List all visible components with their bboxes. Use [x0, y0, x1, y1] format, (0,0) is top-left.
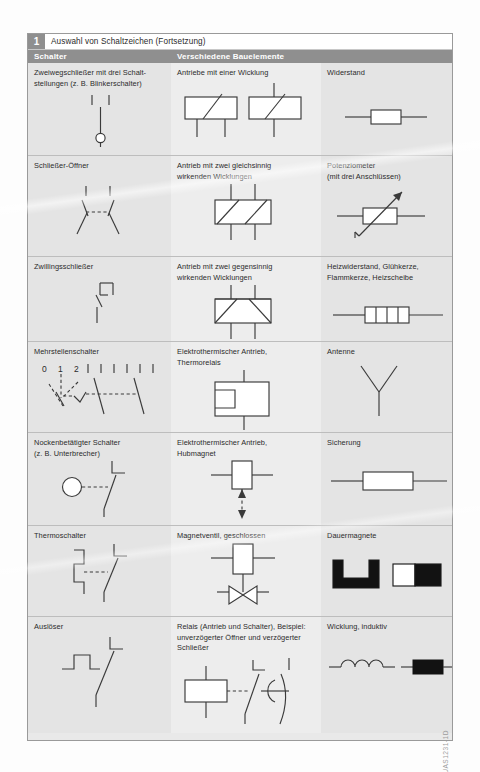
symbol-fuse: [327, 449, 446, 513]
symbol-antenna: [327, 358, 446, 422]
table-row: Auslöser Relais (Antrieb und Schalter), …: [28, 617, 452, 733]
cell-switch: Schließer-Öffner: [28, 156, 171, 256]
cell-label: Widerstand: [327, 68, 446, 79]
cell-component-alt: Wicklung, induktiv: [321, 617, 452, 733]
cell-label: Heizwiderstand, Glühkerze, Flammkerze, H…: [327, 262, 446, 283]
table-row: Mehrstellenschalter 0 1 2: [28, 342, 452, 433]
cell-label: Zwillingsschließer: [34, 262, 165, 273]
cell-label: Antrieb mit zwei gegensinnig wirkenden W…: [177, 262, 315, 283]
table-row: Zwillingsschließer Antrieb mit zwe: [28, 257, 452, 342]
symbol-heating-resistor: [327, 283, 446, 341]
document-page: 1 Auswahl von Schaltzeichen (Fortsetzung…: [0, 0, 480, 772]
cell-switch: Zweiwegschließer mit drei Schalt- stellu…: [28, 63, 171, 155]
column-header-schalter: Schalter: [28, 50, 171, 63]
cell-component: Elektrothermischer Antrieb, Hubmagnet: [171, 433, 321, 525]
column-header-bauelemente: Verschiedene Bauelemente: [171, 50, 321, 63]
position-label-1: 1: [58, 364, 63, 374]
cell-switch: Zwillingsschließer: [28, 257, 171, 341]
cell-switch: Auslöser: [28, 617, 171, 733]
symbol-inductive-winding: [327, 633, 446, 711]
cell-label: Zweiwegschließer mit drei Schalt- stellu…: [34, 68, 165, 89]
cell-label: Potenziometer (mit drei Anschlüssen): [327, 161, 446, 182]
figure-title-bar: 1 Auswahl von Schaltzeichen (Fortsetzung…: [28, 34, 452, 50]
cell-component: Antrieb mit zwei gleichsinnig wirkenden …: [171, 156, 321, 256]
table-body: Zweiwegschließer mit drei Schalt- stellu…: [28, 63, 452, 733]
cell-component: Antriebe mit einer Wicklung: [171, 63, 321, 155]
symbol-actuator-single-winding-pair: [177, 79, 315, 141]
symbol-electrothermal-actuator-solenoid: [177, 459, 315, 523]
symbol-resistor: [327, 79, 446, 141]
cell-label: Dauermagnete: [327, 531, 446, 542]
position-label-0: 0: [42, 364, 47, 374]
cell-label: Antrieb mit zwei gleichsinnig wirkenden …: [177, 161, 315, 182]
cell-switch: Nockenbetätigter Schalter (z. B. Unterbr…: [28, 433, 171, 525]
symbol-changeover-contact: [34, 172, 165, 248]
cell-label: Nockenbetätigter Schalter (z. B. Unterbr…: [34, 438, 165, 459]
cell-label: Antenne: [327, 347, 446, 358]
symbol-two-way-switch-three-positions: [34, 89, 165, 151]
position-label-2: 2: [74, 364, 79, 374]
cell-component: Magnetventil, geschlossen: [171, 526, 321, 616]
symbol-actuator-two-windings-same-direction: [177, 182, 315, 248]
table-row: Nockenbetätigter Schalter (z. B. Unterbr…: [28, 433, 452, 526]
cell-component-alt: Dauermagnete: [321, 526, 452, 616]
symbol-electrothermal-actuator-thermal-relay: [177, 368, 315, 432]
symbol-tripping-device: [34, 633, 165, 723]
cell-component: Relais (Antrieb und Schalter), Beispiel:…: [171, 617, 321, 733]
symbol-cam-operated-switch: [34, 459, 165, 521]
figure-number: 1: [28, 34, 45, 49]
symbol-table: 1 Auswahl von Schaltzeichen (Fortsetzung…: [27, 33, 453, 741]
cell-label: Magnetventil, geschlossen: [177, 531, 315, 542]
cell-switch: Thermoschalter: [28, 526, 171, 616]
cell-label: Elektrothermischer Antrieb, Thermorelais: [177, 347, 315, 368]
figure-side-code: UAS1231-1D: [442, 730, 449, 772]
cell-component: Elektrothermischer Antrieb, Thermorelais: [171, 342, 321, 432]
symbol-actuator-two-windings-opposed: [177, 283, 315, 341]
cell-label: Elektrothermischer Antrieb, Hubmagnet: [177, 438, 315, 459]
cell-component-alt: Antenne: [321, 342, 452, 432]
cell-label: Schließer-Öffner: [34, 161, 165, 172]
table-column-header: Schalter Verschiedene Bauelemente: [28, 50, 452, 63]
cell-label: Auslöser: [34, 622, 165, 633]
table-row: Schließer-Öffner An: [28, 156, 452, 257]
cell-label: Sicherung: [327, 438, 446, 449]
figure-title: Auswahl von Schaltzeichen (Fortsetzung): [45, 34, 452, 49]
symbol-multi-position-switch: 0 1 2: [34, 358, 165, 424]
symbol-twin-make-contact: [34, 273, 165, 335]
cell-component-alt: Heizwiderstand, Glühkerze, Flammkerze, H…: [321, 257, 452, 341]
symbol-solenoid-valve-closed: [177, 542, 315, 614]
symbol-permanent-magnets: [327, 542, 446, 614]
table-row: Thermoschalter Magnetventil, geschlossen: [28, 526, 452, 617]
table-row: Zweiwegschließer mit drei Schalt- stellu…: [28, 63, 452, 156]
cell-component: Antrieb mit zwei gegensinnig wirkenden W…: [171, 257, 321, 341]
symbol-potentiometer: [327, 182, 446, 248]
cell-label: Thermoschalter: [34, 531, 165, 542]
cell-switch: Mehrstellenschalter 0 1 2: [28, 342, 171, 432]
cell-label: Antriebe mit einer Wicklung: [177, 68, 315, 79]
symbol-relay-with-contacts: [177, 654, 315, 732]
cell-label: Mehrstellenschalter: [34, 347, 165, 358]
symbol-thermal-switch: [34, 542, 165, 608]
cell-label: Relais (Antrieb und Schalter), Beispiel:…: [177, 622, 315, 654]
cell-component-alt: Potenziometer (mit drei Anschlüssen): [321, 156, 452, 256]
column-header-spacer: [321, 50, 452, 63]
cell-label: Wicklung, induktiv: [327, 622, 446, 633]
cell-component-alt: Widerstand: [321, 63, 452, 155]
cell-component-alt: Sicherung: [321, 433, 452, 525]
